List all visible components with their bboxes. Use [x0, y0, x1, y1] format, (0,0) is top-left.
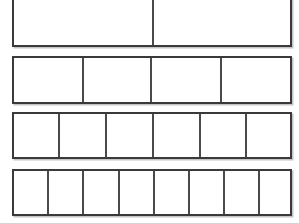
bar-cell	[14, 114, 60, 157]
bar-cell	[225, 171, 260, 214]
bar-sixths	[12, 112, 292, 159]
bar-halves	[12, 0, 292, 47]
bar-cell	[152, 58, 222, 102]
bar-cell	[60, 114, 107, 157]
fraction-bar-diagram	[0, 0, 299, 223]
bar-cell	[190, 171, 225, 214]
bar-cell	[260, 171, 290, 214]
bar-cell	[14, 171, 49, 214]
bar-eighths	[12, 169, 292, 216]
bar-cell	[247, 114, 290, 157]
bar-cell	[154, 114, 201, 157]
bar-cell	[14, 0, 154, 45]
bar-cell	[201, 114, 247, 157]
bar-cell	[84, 58, 152, 102]
bar-fourths	[12, 56, 292, 104]
bar-cell	[14, 58, 84, 102]
bar-cell	[107, 114, 154, 157]
bar-cell	[155, 171, 190, 214]
bar-cell	[154, 0, 290, 45]
bar-cell	[49, 171, 84, 214]
bar-cell	[222, 58, 290, 102]
bar-cell	[120, 171, 155, 214]
bar-cell	[84, 171, 120, 214]
